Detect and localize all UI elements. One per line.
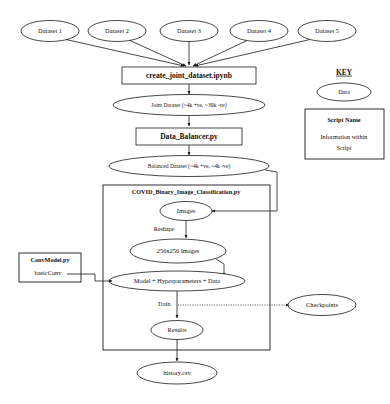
basic-conv-label: basicConv xyxy=(35,269,63,276)
data-history-csv[interactable]: history.csv xyxy=(137,362,217,384)
key-script-info-line1: Information within xyxy=(321,133,368,140)
dataset-3-label: Dataset 3 xyxy=(177,27,201,34)
images-256-label: 256x256 Images xyxy=(157,247,200,254)
source-dataset-4[interactable]: Dataset 4 xyxy=(230,21,288,42)
data-balanced-dataset[interactable]: Balanced Dataset (~4k +ve, ~4k -ve) xyxy=(109,156,269,177)
data-images[interactable]: Images xyxy=(160,202,212,221)
model-hyper-label: Model + Hyperparameters + Data xyxy=(134,277,221,284)
source-dataset-5[interactable]: Dataset 5 xyxy=(298,21,356,42)
joint-dataset-label: Joint Dataset (~4k +ve, ~30k -ve) xyxy=(151,102,227,109)
pipeline-flowchart: Dataset 1 Dataset 2 Dataset 3 Dataset 4 … xyxy=(0,0,390,404)
balanced-dataset-label: Balanced Dataset (~4k +ve, ~4k -ve) xyxy=(148,163,231,170)
dataset-1-label: Dataset 1 xyxy=(38,27,62,34)
key-data-label: Data xyxy=(338,88,350,95)
source-dataset-2[interactable]: Dataset 2 xyxy=(88,21,146,42)
data-joint-dataset[interactable]: Joint Dataset (~4k +ve, ~30k -ve) xyxy=(113,95,265,116)
script-create-joint-dataset[interactable]: create_joint_dataset.ipynb xyxy=(122,67,256,84)
history-csv-label: history.csv xyxy=(163,369,191,376)
edge-label-reshape: Reshape xyxy=(154,226,175,232)
images-label: Images xyxy=(177,207,196,214)
data-model-hyperparameters[interactable]: Model + Hyperparameters + Data xyxy=(109,271,245,291)
covid-script-label: COVID_Binary_Image_Classification.py xyxy=(132,188,241,195)
key-script-info-line2: Script xyxy=(337,144,352,151)
key-script-name-label: Script Name xyxy=(327,116,360,123)
data-results[interactable]: Results xyxy=(151,321,203,340)
source-dataset-1[interactable]: Dataset 1 xyxy=(21,21,79,42)
create-joint-dataset-label: create_joint_dataset.ipynb xyxy=(146,71,232,80)
results-label: Results xyxy=(168,326,187,333)
data-checkpoints[interactable]: Checkpoints xyxy=(288,295,356,316)
source-dataset-3[interactable]: Dataset 3 xyxy=(160,21,218,42)
dataset-4-label: Dataset 4 xyxy=(247,27,272,34)
data-256x256-images[interactable]: 256x256 Images xyxy=(130,239,226,263)
edge-label-train: Train xyxy=(158,301,171,307)
checkpoints-label: Checkpoints xyxy=(306,301,338,308)
data-balancer-label: Data_Balancer.py xyxy=(160,132,218,141)
conv-model-label: ConvModel.py xyxy=(30,256,70,263)
key-title: KEY xyxy=(336,68,353,77)
dataset-5-label: Dataset 5 xyxy=(315,27,339,34)
script-data-balancer[interactable]: Data_Balancer.py xyxy=(136,128,242,145)
dataset-2-label: Dataset 2 xyxy=(105,27,129,34)
